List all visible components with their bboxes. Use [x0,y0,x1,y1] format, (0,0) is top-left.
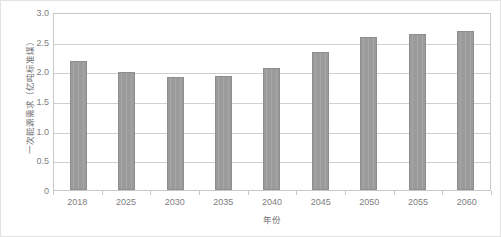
bar [263,68,280,190]
x-axis-tick-mark [53,191,54,195]
bar-series [54,14,490,190]
plot-area [53,13,491,191]
x-axis-tick-label: 2060 [442,197,491,207]
bar-slot [102,14,150,190]
bar-slot [393,14,441,190]
bar [457,31,474,190]
x-axis-tick-label: 2055 [394,197,443,207]
x-axis-tick-label: 2045 [296,197,345,207]
bar-slot [442,14,490,190]
bar-chart-figure: 一次能源需求（亿吨标准煤） 00.51.01.52.02.53.0 201820… [0,0,501,237]
y-axis-tick-label: 0 [44,186,49,196]
y-axis-tick-label: 2.5 [36,38,49,48]
x-axis-tick-mark [442,191,443,195]
x-axis-tick-mark [150,191,151,195]
y-axis-tick-label: 1.0 [36,127,49,137]
y-axis-tick-label: 0.5 [36,156,49,166]
x-axis-tick-labels: 201820252030203520402045205020552060 [53,197,491,207]
bar [215,76,232,191]
x-axis-tick-label: 2050 [345,197,394,207]
x-axis-tick-label: 2025 [102,197,151,207]
y-axis-tick-label: 2.0 [36,67,49,77]
y-axis-tick-label: 3.0 [36,8,49,18]
x-axis-tick-mark [199,191,200,195]
bar [360,37,377,190]
bar-slot [248,14,296,190]
bar [118,72,135,190]
x-axis-tick-mark [394,191,395,195]
y-axis-tick-labels: 00.51.01.52.02.53.0 [21,13,49,191]
x-axis-tick-label: 2035 [199,197,248,207]
bar-slot [151,14,199,190]
bar [167,77,184,190]
bar-slot [199,14,247,190]
bar [70,61,87,190]
x-axis-tick-mark [345,191,346,195]
y-axis-tick-label: 1.5 [36,97,49,107]
x-axis-tick-mark [491,191,492,195]
bar [312,52,329,190]
bar-slot [54,14,102,190]
bar-slot [345,14,393,190]
bar-slot [296,14,344,190]
x-axis-tick-mark [248,191,249,195]
x-axis-title: 年份 [53,213,491,225]
x-axis-tick-label: 2018 [53,197,102,207]
x-axis-tick-label: 2030 [150,197,199,207]
x-axis-tick-label: 2040 [248,197,297,207]
x-axis-tick-mark [296,191,297,195]
x-axis-tick-marks [53,191,491,196]
x-axis-tick-mark [102,191,103,195]
bar [409,34,426,190]
